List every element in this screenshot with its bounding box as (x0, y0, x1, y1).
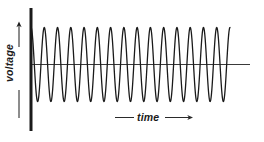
time-axis-label: time (137, 111, 159, 123)
ac-voltage-waveform-figure: voltage time (0, 0, 264, 142)
waveform-diagram (0, 0, 264, 142)
right-arrow-icon (165, 115, 193, 120)
voltage-axis-label: voltage (3, 41, 15, 85)
up-arrow-icon (16, 22, 21, 48)
